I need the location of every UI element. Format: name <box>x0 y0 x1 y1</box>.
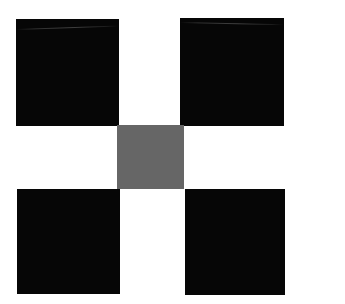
top-right-scanline <box>180 22 284 25</box>
bottom-left-square <box>17 189 120 294</box>
bottom-right-square <box>185 189 285 295</box>
image-canvas <box>0 0 345 304</box>
top-left-square <box>16 19 119 126</box>
top-left-scanline <box>16 26 119 30</box>
top-right-square <box>180 18 284 126</box>
center-square <box>117 125 184 189</box>
